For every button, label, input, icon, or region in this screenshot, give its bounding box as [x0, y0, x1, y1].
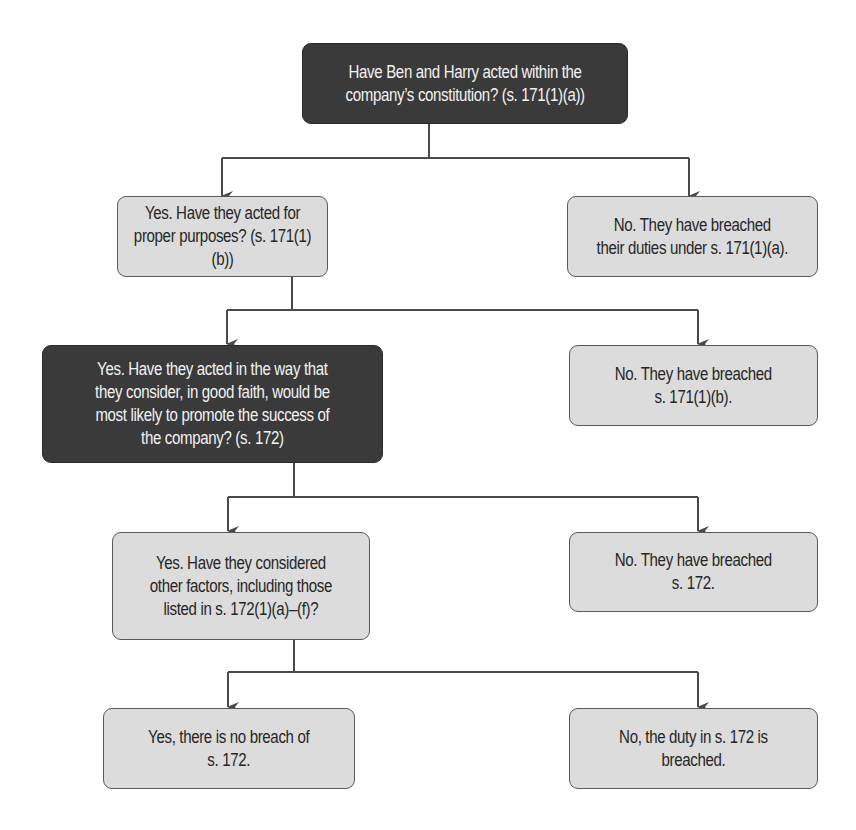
node-no-breach-172: Yes, there is no breach of s. 172. [103, 708, 355, 789]
node-text: Have Ben and Harry acted within the comp… [345, 61, 584, 107]
node-breach-172: No. They have breached s. 172. [569, 532, 818, 612]
node-text: No, the duty in s. 172 is breached. [619, 726, 768, 772]
node-text: Yes. Have they acted for proper purposes… [133, 202, 313, 271]
node-text: No. They have breached s. 172. [615, 549, 772, 595]
node-breach-171-1-a: No. They have breached their duties unde… [567, 196, 818, 277]
node-breach-171-1-b: No. They have breached s. 171(1)(b). [569, 345, 818, 426]
node-text: Yes, there is no breach of s. 172. [148, 726, 309, 772]
node-proper-purposes-question: Yes. Have they acted for proper purposes… [117, 196, 328, 277]
node-text: Yes. Have they considered other factors,… [150, 552, 332, 621]
node-good-faith-question: Yes. Have they acted in the way that the… [42, 345, 383, 463]
node-text: No. They have breached s. 171(1)(b). [615, 363, 772, 409]
node-duty-172-breached: No, the duty in s. 172 is breached. [569, 708, 818, 789]
node-text: No. They have breached their duties unde… [597, 214, 788, 260]
node-text: Yes. Have they acted in the way that the… [95, 358, 330, 450]
node-constitution-question: Have Ben and Harry acted within the comp… [302, 43, 628, 124]
node-other-factors-question: Yes. Have they considered other factors,… [112, 532, 370, 640]
